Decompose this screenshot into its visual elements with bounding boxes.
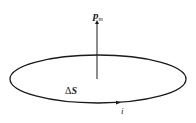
- current-loop-diagram: pm ΔS i: [0, 0, 196, 123]
- area-label: ΔS: [65, 85, 77, 96]
- current-direction-arrow-icon: [116, 101, 121, 105]
- moment-label: pm: [92, 9, 104, 22]
- current-label: i: [121, 106, 124, 116]
- current-loop: [10, 55, 186, 103]
